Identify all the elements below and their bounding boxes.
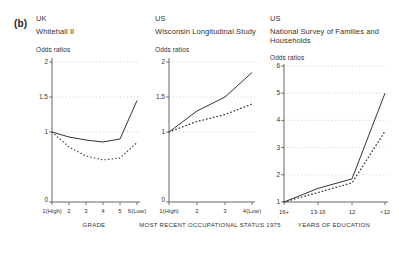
chart-panel-whitehall: UK Whitehall II Odds ratios xyxy=(36,0,146,254)
figure-part-label: (b) xyxy=(14,18,27,29)
x-tick-label: 4(Low) xyxy=(243,208,261,214)
x-axis-title: GRADE xyxy=(83,222,106,228)
y-tick-label: 3 xyxy=(262,144,280,151)
x-tick-label: 2 xyxy=(195,208,198,214)
x-tick-label: 1(High) xyxy=(159,208,179,214)
panel-country-label: UK xyxy=(36,14,47,23)
x-tick-label: 5 xyxy=(118,208,121,214)
x-axis-title: YEARS OF EDUCATION xyxy=(298,222,370,228)
panel-study-label: National Survey of Families and Househol… xyxy=(270,28,395,45)
figure-panel-b: (b) UK Whitehall II Odds ratios xyxy=(0,0,399,254)
x-tick-label: 1(High) xyxy=(42,208,62,214)
y-tick-label: 2 xyxy=(147,58,165,65)
x-tick-label: 6(Low) xyxy=(128,208,146,214)
series-solid-line xyxy=(52,101,137,143)
x-tick-label: <12 xyxy=(380,209,390,215)
y-tick-label: 1 xyxy=(30,128,48,135)
chart-panel-nsfh: US National Survey of Families and House… xyxy=(270,0,395,254)
plot-area-nsfh xyxy=(270,62,388,204)
y-tick-label: 2 xyxy=(262,171,280,178)
series-solid-line xyxy=(169,73,252,133)
y-tick-label: 1 xyxy=(262,198,280,205)
y-tick-label: 4 xyxy=(262,116,280,123)
y-tick-label: 1.5 xyxy=(147,93,165,100)
x-tick-label: 12 xyxy=(349,209,356,215)
x-tick-label: 16+ xyxy=(279,209,289,215)
panel-study-label: Whitehall II xyxy=(36,28,161,37)
plot-area-whitehall xyxy=(36,56,140,204)
panel-study-label: Wisconsin Longitudinal Study xyxy=(155,28,280,37)
x-tick-label: 13-16 xyxy=(310,209,325,215)
y-tick-label: 1 xyxy=(147,128,165,135)
y-tick-label: 0 xyxy=(147,196,165,203)
chart-panel-wisconsin: US Wisconsin Longitudinal Study Odds rat… xyxy=(155,0,260,254)
x-tick-label: 2 xyxy=(67,208,70,214)
y-axis-label: Odds ratios xyxy=(270,54,304,61)
panel-country-label: US xyxy=(270,14,281,23)
series-dotted-line xyxy=(284,131,385,202)
x-tick-label: 3 xyxy=(223,208,226,214)
series-dotted-line xyxy=(169,104,252,132)
panel-country-label: US xyxy=(155,14,166,23)
x-tick-label: 4 xyxy=(101,208,104,214)
y-tick-label: 2 xyxy=(30,58,48,65)
x-tick-label: 3 xyxy=(84,208,87,214)
y-tick-label: 5 xyxy=(262,89,280,96)
y-tick-label: 6 xyxy=(262,62,280,69)
y-tick-label: 1.5 xyxy=(30,93,48,100)
y-axis-label: Odds ratios xyxy=(36,46,70,53)
y-tick-label: 0 xyxy=(30,196,48,203)
plot-area-wisconsin xyxy=(155,56,255,204)
y-axis-label: Odds ratios xyxy=(155,46,189,53)
x-axis-title: MOST RECENT OCCUPATIONAL STATUS 1975 xyxy=(139,222,281,228)
